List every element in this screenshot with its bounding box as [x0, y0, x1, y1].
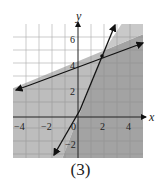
tick-y-2: 2 — [70, 86, 75, 97]
tick-y-6: 6 — [70, 34, 75, 45]
y-axis-label: y — [75, 9, 82, 23]
x-axis-label: x — [148, 110, 155, 124]
tick-x-4: 4 — [126, 121, 131, 132]
tick-x-0: 0 — [71, 121, 76, 132]
tick-x-2: 2 — [100, 121, 105, 132]
graph: y x −4 −2 0 2 4 −2 2 4 6 — [0, 0, 161, 181]
intersection-point — [100, 54, 104, 58]
tick-y--2: −2 — [65, 139, 76, 150]
tick-x--4: −4 — [14, 121, 25, 132]
tick-x--2: −2 — [41, 121, 52, 132]
figure-caption: (3) — [0, 160, 161, 180]
tick-y-4: 4 — [70, 60, 75, 71]
